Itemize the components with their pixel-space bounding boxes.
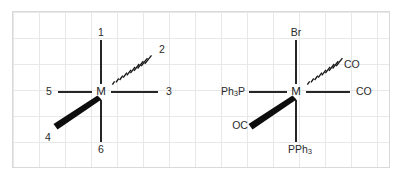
ligand-label-oc-wedge: OC [232,119,248,131]
ligand-label-5: 5 [46,85,52,97]
ligand-label-2: 2 [159,43,165,55]
bond-hashed-upper-right-co [307,58,342,84]
bond-wedge-lower-left [54,96,102,130]
ligand-label-3: 3 [166,85,172,97]
ligand-left-tail: P [238,85,245,97]
ligand-bottom-subscript: 3 [308,147,312,156]
ligand-label-co-right: CO [356,85,372,97]
figure-canvas: M 1 2 3 4 5 6 [0,0,403,179]
chemistry-structure-svg: M 1 2 3 4 5 6 [0,0,403,179]
bond-wedge-lower-left-oc [249,96,297,130]
ligand-label-6: 6 [98,143,104,155]
ligand-label-4: 4 [45,131,51,143]
ligand-label-triphenylphosphine-bottom: PPh3 [288,143,312,156]
diagram-generic-octahedron: M 1 2 3 4 5 6 [45,26,172,155]
center-atom-label-left: M [96,85,106,97]
bond-hashed-upper-right [112,55,151,84]
ligand-bottom-main: PPh [288,143,308,155]
ligand-left-main: Ph [221,85,234,97]
ligand-label-triphenylphosphine-left: Ph3P [221,85,245,98]
ligand-label-1: 1 [98,26,104,38]
ligand-label-co-hashed: CO [344,58,360,70]
diagram-assigned-octahedron: M Br CO CO OC Ph3P PPh3 [221,26,372,156]
ligand-label-bromine: Br [291,26,302,38]
center-atom-label-right: M [291,85,301,97]
